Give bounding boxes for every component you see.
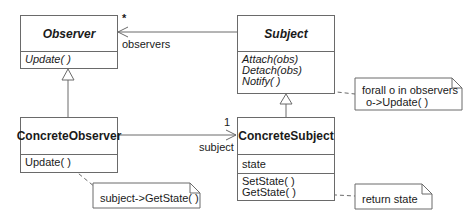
role-subject: subject xyxy=(199,141,234,153)
class-subject[interactable]: Subject Attach(obs) Detach(obs) Notify( … xyxy=(237,15,335,94)
generalization-subject xyxy=(280,94,292,117)
class-concrete-observer[interactable]: ConcreteObserver Update( ) xyxy=(20,117,118,173)
inheritance-triangle-icon xyxy=(62,69,74,80)
class-name: ConcreteObserver xyxy=(21,118,117,154)
note-line: forall o in observers xyxy=(362,84,458,96)
note-update: subject->GetState( ) xyxy=(94,188,205,208)
association-observers xyxy=(118,27,237,37)
class-name: Observer xyxy=(21,16,117,51)
role-observers: observers xyxy=(122,38,170,50)
association-subject xyxy=(117,130,236,140)
attribute: state xyxy=(242,159,330,170)
note-getstate: return state xyxy=(356,189,424,209)
multiplicity-one: 1 xyxy=(224,116,230,128)
multiplicity-many: * xyxy=(122,12,126,24)
note-line: return state xyxy=(362,193,418,205)
operations-section: SetState( ) GetState( ) xyxy=(238,173,334,200)
note-line: subject->GetState( ) xyxy=(100,192,199,204)
class-observer[interactable]: Observer Update( ) xyxy=(20,15,118,69)
generalization-observer xyxy=(62,69,74,117)
operation: Update( ) xyxy=(25,54,113,65)
note-line: o->Update( ) xyxy=(362,96,458,108)
note-notify: forall o in observers o->Update( ) xyxy=(356,80,464,112)
operation: GetState( ) xyxy=(242,187,330,198)
class-concrete-subject[interactable]: ConcreteSubject state SetState( ) GetSta… xyxy=(237,117,335,201)
class-name: Subject xyxy=(238,16,334,51)
operations-section: Attach(obs) Detach(obs) Notify( ) xyxy=(238,51,334,93)
operation: Update( ) xyxy=(25,157,113,168)
operations-section: Update( ) xyxy=(21,51,117,68)
class-name: ConcreteSubject xyxy=(238,118,334,154)
operation: Notify( ) xyxy=(242,76,330,87)
inheritance-triangle-icon xyxy=(280,94,292,104)
operations-section: Update( ) xyxy=(21,154,117,172)
attributes-section: state xyxy=(238,154,334,173)
